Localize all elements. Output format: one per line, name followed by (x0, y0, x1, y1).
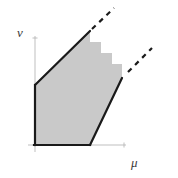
nu-axis-label: ν (17, 26, 23, 39)
mu-axis-label: μ (131, 156, 138, 169)
figure-container: ν μ (0, 0, 178, 178)
upper-dashed-extension (92, 8, 114, 29)
lower-dashed-extension (128, 48, 152, 72)
region-diagram-svg (0, 0, 178, 178)
shaded-region-fill (35, 31, 122, 145)
